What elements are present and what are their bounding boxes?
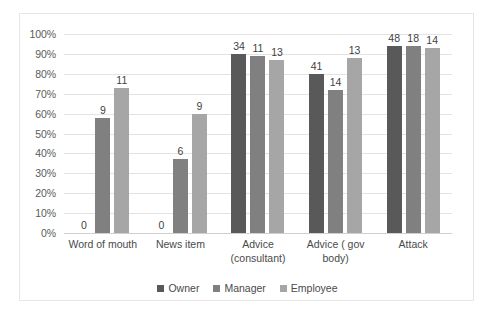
x-axis-category-label: Advice(consultant) [219, 238, 297, 265]
bar-value-label: 14 [330, 76, 342, 88]
bars-layer: 0911069341113411413481814 [64, 34, 452, 233]
bar-value-label: 11 [116, 74, 127, 86]
x-axis-category-line: Advice [219, 238, 297, 252]
gridline [64, 233, 452, 234]
bar-rect[interactable] [328, 90, 343, 233]
legend-label: Employee [291, 282, 338, 294]
y-axis-tick-label: 90% [35, 48, 56, 60]
x-axis-category-label: Attack [374, 238, 452, 252]
bar-employee-2[interactable]: 13 [269, 34, 284, 233]
y-axis-tick-label: 80% [35, 68, 56, 80]
bar-group: 341113 [219, 34, 297, 233]
bar-value-label: 9 [100, 104, 106, 116]
bar-rect[interactable] [114, 88, 129, 233]
legend-label: Owner [168, 282, 199, 294]
y-axis-tick-label: 100% [30, 28, 56, 40]
y-axis: 100%90%80%70%60%50%40%30%20%10%0% [20, 34, 60, 233]
y-axis-tick-label: 10% [35, 207, 56, 219]
y-axis-tick-label: 30% [35, 167, 56, 179]
bar-employee-4[interactable]: 14 [425, 34, 440, 233]
legend-label: Manager [224, 282, 265, 294]
bar-rect[interactable] [425, 48, 440, 233]
y-axis-tick-label: 60% [35, 108, 56, 120]
legend-item-owner[interactable]: Owner [157, 282, 199, 294]
bar-rect[interactable] [192, 114, 207, 233]
x-axis-category-line: News item [142, 238, 220, 252]
x-axis-category-line: Attack [374, 238, 452, 252]
bar-group: 069 [142, 34, 220, 233]
chart-legend: OwnerManagerEmployee [20, 282, 475, 294]
bar-value-label: 48 [388, 32, 400, 44]
x-axis-category-line: body) [297, 252, 375, 266]
bar-value-label: 41 [311, 60, 323, 72]
legend-swatch-icon [280, 285, 287, 292]
bar-manager-2[interactable]: 11 [250, 34, 265, 233]
bar-owner-2[interactable]: 34 [231, 34, 246, 233]
bar-value-label: 14 [426, 34, 438, 46]
bar-employee-1[interactable]: 9 [192, 34, 207, 233]
legend-item-employee[interactable]: Employee [280, 282, 338, 294]
y-axis-tick-label: 50% [35, 128, 56, 140]
bar-manager-0[interactable]: 9 [95, 34, 110, 233]
bar-rect[interactable] [95, 118, 110, 233]
x-axis-category-line: Advice ( gov [297, 238, 375, 252]
bar-group: 0911 [64, 34, 142, 233]
bar-manager-4[interactable]: 18 [406, 34, 421, 233]
bar-value-label: 0 [81, 219, 87, 231]
bar-value-label: 11 [253, 42, 264, 54]
y-axis-tick-label: 0% [41, 227, 56, 239]
bar-rect[interactable] [173, 159, 188, 233]
bar-value-label: 34 [233, 40, 245, 52]
bar-owner-4[interactable]: 48 [387, 34, 402, 233]
x-axis-category-label: Word of mouth [64, 238, 142, 252]
bar-value-label: 9 [196, 100, 202, 112]
bar-rect[interactable] [309, 74, 324, 233]
bar-employee-0[interactable]: 11 [114, 34, 129, 233]
bar-group: 481814 [374, 34, 452, 233]
bar-manager-3[interactable]: 14 [328, 34, 343, 233]
bar-value-label: 13 [271, 46, 283, 58]
legend-swatch-icon [157, 285, 164, 292]
bar-rect[interactable] [231, 54, 246, 233]
x-axis: Word of mouthNews itemAdvice(consultant)… [64, 238, 452, 276]
bar-value-label: 18 [407, 32, 419, 44]
y-axis-tick-label: 40% [35, 147, 56, 159]
y-axis-tick-label: 20% [35, 187, 56, 199]
bar-value-label: 13 [349, 44, 361, 56]
x-axis-category-label: Advice ( govbody) [297, 238, 375, 265]
x-axis-category-line: Word of mouth [64, 238, 142, 252]
chart-container: 100%90%80%70%60%50%40%30%20%10%0% 091106… [19, 13, 474, 301]
bar-rect[interactable] [269, 60, 284, 233]
bar-group: 411413 [297, 34, 375, 233]
legend-swatch-icon [213, 285, 220, 292]
bar-rect[interactable] [387, 46, 402, 233]
x-axis-category-line: (consultant) [219, 252, 297, 266]
bar-manager-1[interactable]: 6 [173, 34, 188, 233]
x-axis-category-label: News item [142, 238, 220, 252]
bar-employee-3[interactable]: 13 [347, 34, 362, 233]
legend-item-manager[interactable]: Manager [213, 282, 265, 294]
y-axis-tick-label: 70% [35, 88, 56, 100]
bar-owner-0[interactable]: 0 [76, 34, 91, 233]
bar-owner-1[interactable]: 0 [154, 34, 169, 233]
bar-rect[interactable] [250, 56, 265, 233]
bar-owner-3[interactable]: 41 [309, 34, 324, 233]
bar-rect[interactable] [406, 46, 421, 233]
bar-rect[interactable] [347, 58, 362, 233]
bar-value-label: 6 [177, 145, 183, 157]
bar-value-label: 0 [158, 219, 164, 231]
